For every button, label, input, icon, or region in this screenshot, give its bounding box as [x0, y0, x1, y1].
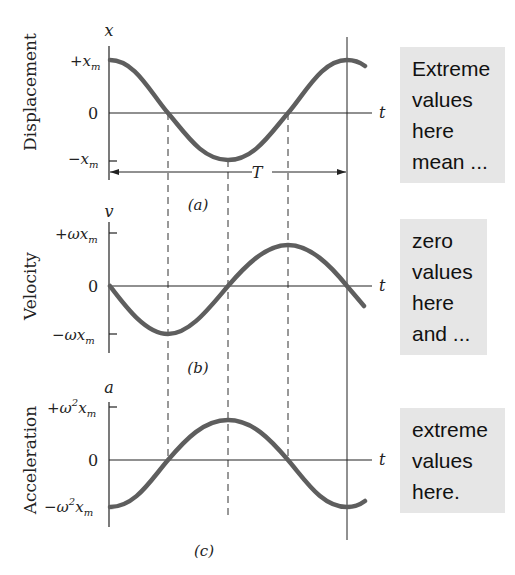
note-line: Extreme — [412, 53, 505, 84]
panel-a-ylabel: Displacement — [20, 33, 40, 151]
panel-c-axis-var: a — [104, 378, 114, 397]
panel-b-tick-neg-label: −ωxm — [52, 326, 95, 346]
panel-c-acceleration: Acceleration a t +ω2xm 0 −ω2xm (c) — [20, 378, 386, 560]
note-line: and ... — [412, 318, 487, 349]
panel-b-tick-zero-label: 0 — [88, 277, 98, 296]
note-line: values — [412, 84, 505, 115]
note-box-displacement: Extreme values here mean ... — [400, 47, 505, 183]
panel-b-caption: (b) — [187, 359, 208, 377]
panel-a-t-label: t — [379, 103, 386, 122]
panel-b-t-label: t — [379, 276, 386, 295]
panel-a-tick-pos-label: +xm — [70, 52, 101, 72]
note-line: zero — [412, 225, 487, 256]
panel-b-tick-pos-label: +ωxm — [55, 225, 98, 245]
note-line: mean ... — [412, 146, 505, 177]
period-label: T — [252, 163, 264, 182]
panel-a-tick-zero-label: 0 — [88, 104, 98, 123]
panel-c-caption: (c) — [194, 542, 214, 560]
note-line: values — [412, 445, 505, 476]
panel-a-caption: (a) — [188, 196, 209, 214]
note-line: here — [412, 287, 487, 318]
panel-c-ylabel: Acceleration — [20, 406, 40, 516]
panel-c-tick-pos-label: +ω2xm — [47, 397, 96, 419]
panel-c-t-label: t — [379, 450, 386, 469]
panel-b-curve — [110, 245, 364, 334]
panel-c-tick-neg-label: −ω2xm — [44, 496, 93, 518]
note-box-velocity: zero values here and ... — [400, 219, 487, 355]
note-box-acceleration: extreme values here. — [400, 408, 505, 513]
panel-a-displacement: Displacement x t +xm 0 −xm T (a) — [20, 21, 386, 214]
panel-a-tick-neg-label: −xm — [68, 150, 99, 170]
note-line: values — [412, 256, 487, 287]
panel-a-axis-var: x — [104, 21, 113, 40]
note-line: here — [412, 115, 505, 146]
panel-c-curve — [110, 420, 365, 507]
panel-a-curve — [110, 60, 365, 160]
note-line: extreme — [412, 414, 505, 445]
panel-b-velocity: Velocity v t +ωxm 0 −ωxm (b) — [20, 202, 386, 377]
note-line: here. — [412, 476, 505, 507]
panel-c-tick-zero-label: 0 — [88, 451, 98, 470]
panel-b-ylabel: Velocity — [20, 252, 40, 321]
panel-b-axis-var: v — [104, 202, 113, 221]
